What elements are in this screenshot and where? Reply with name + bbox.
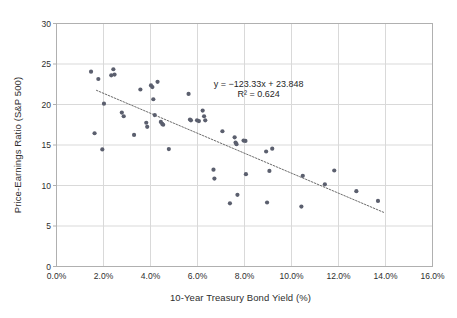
y-axis-tick-label: 10 <box>28 181 51 191</box>
data-point <box>150 85 154 89</box>
data-point <box>167 147 171 151</box>
x-axis-tick-label: 14.0% <box>373 271 397 281</box>
data-point <box>144 121 148 125</box>
data-point <box>354 189 358 193</box>
y-axis-tick-label: 5 <box>28 221 51 231</box>
data-point <box>120 111 124 115</box>
data-point <box>235 193 239 197</box>
trendline-group <box>96 90 384 212</box>
x-axis-tick-label: 16.0% <box>420 271 444 281</box>
data-point <box>212 177 216 181</box>
gridlines <box>57 24 433 267</box>
data-point <box>270 147 274 151</box>
data-point <box>202 114 206 118</box>
x-axis-tick-label: 10.0% <box>279 271 303 281</box>
data-point <box>100 147 104 151</box>
x-axis-tick-label: 4.0% <box>141 271 160 281</box>
y-axis-tick-label: 25 <box>28 59 51 69</box>
data-point <box>112 72 116 76</box>
data-point <box>220 129 224 133</box>
y-axis-tick-label: 0 <box>28 262 51 272</box>
data-point <box>197 119 201 123</box>
x-axis-tick-label: 12.0% <box>326 271 350 281</box>
data-point <box>201 108 205 112</box>
data-point <box>234 142 238 146</box>
data-point <box>299 204 303 208</box>
data-point <box>186 92 190 96</box>
x-axis-tick-label: 0.0% <box>47 271 66 281</box>
y-axis-tick-label: 20 <box>28 100 51 110</box>
data-point <box>267 169 271 173</box>
data-point <box>243 139 247 143</box>
data-point <box>211 168 215 172</box>
y-axis-tick-label: 30 <box>28 19 51 29</box>
x-axis-title: 10-Year Treasury Bond Yield (%) <box>12 292 457 303</box>
trendline-equation-annotation: y = −123.33x + 23.848 R² = 0.624 <box>199 79 319 99</box>
data-point <box>89 70 93 74</box>
x-axis-tick-label: 6.0% <box>188 271 207 281</box>
y-axis-tick-label: 15 <box>28 140 51 150</box>
data-point <box>132 133 136 137</box>
data-point <box>244 172 248 176</box>
scatter-chart: Price-Earnings Ratio (S&P 500) 051015202… <box>0 0 457 318</box>
data-point <box>155 80 159 84</box>
data-point <box>228 201 232 205</box>
trendline-equation-line: y = −123.33x + 23.848 <box>199 79 319 89</box>
data-point <box>151 97 155 101</box>
data-point <box>111 67 115 71</box>
data-point <box>189 118 193 122</box>
x-axis-tick-label: 2.0% <box>94 271 113 281</box>
data-point <box>122 114 126 118</box>
data-point <box>301 174 305 178</box>
data-point <box>161 123 165 127</box>
trendline <box>96 90 384 212</box>
data-point <box>153 113 157 117</box>
data-point <box>102 102 106 106</box>
data-point <box>376 199 380 203</box>
x-axis-tick-label: 8.0% <box>235 271 254 281</box>
data-point <box>323 182 327 186</box>
data-point <box>265 200 269 204</box>
data-point <box>138 87 142 91</box>
trendline-r-squared-line: R² = 0.624 <box>199 89 319 99</box>
data-point <box>332 168 336 172</box>
data-point <box>145 125 149 129</box>
data-point <box>203 118 207 122</box>
data-point <box>92 131 96 135</box>
data-point <box>233 135 237 139</box>
data-point <box>96 77 100 81</box>
data-point <box>264 149 268 153</box>
